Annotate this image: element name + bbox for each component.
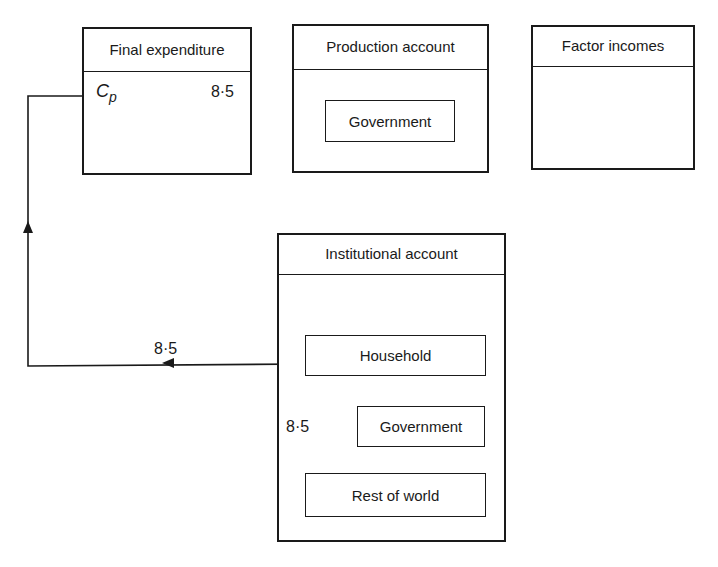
institutional-account-title: Institutional account [279,235,504,275]
arrow-up-icon [23,221,33,233]
factor-incomes-title: Factor incomes [533,27,693,67]
cp-entry-value: 8·5 [211,83,234,101]
household-to-final-flow-value: 8·5 [154,340,177,358]
final-expenditure-account: Final expenditure Cp 8·5 [82,27,252,175]
institutional-government-sector: Government [357,406,485,447]
production-account: Production account Government [292,24,489,173]
production-account-title: Production account [294,26,487,70]
final-expenditure-title: Final expenditure [84,29,250,72]
factor-incomes-account: Factor incomes [531,25,695,170]
household-sector: Household [305,335,486,376]
rest-of-world-sector: Rest of world [305,473,486,517]
cp-entry-symbol: Cp [96,81,117,105]
production-government-sector: Government [325,100,455,142]
rest-of-world-to-household-flow-value: 8·5 [286,418,309,436]
arrow-left-icon [162,358,174,368]
